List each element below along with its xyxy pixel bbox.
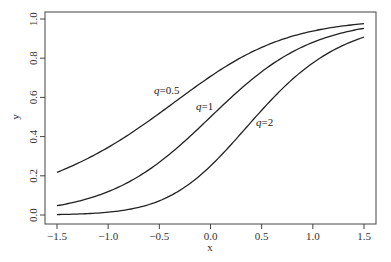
curve-q-1 bbox=[57, 28, 364, 205]
y-tick-label: 1.0 bbox=[27, 12, 39, 26]
y-tick-label: 0.8 bbox=[27, 51, 39, 65]
curve-q-0.5 bbox=[57, 24, 364, 173]
x-axis: −1.5−1.0−0.50.00.51.01.5 bbox=[47, 224, 371, 242]
y-tick-label: 0.2 bbox=[27, 169, 39, 183]
plot-area-frame bbox=[45, 12, 376, 224]
y-tick-label: 0.4 bbox=[27, 129, 39, 143]
y-tick-label: 0.6 bbox=[27, 90, 39, 104]
x-tick-label: −1.0 bbox=[98, 230, 118, 242]
x-tick-label: −1.5 bbox=[47, 230, 67, 242]
curve-q-2 bbox=[57, 37, 364, 214]
x-tick-label: 1.5 bbox=[357, 230, 371, 242]
curve-label-q-1: q=1 bbox=[196, 100, 213, 112]
x-tick-label: 0.5 bbox=[255, 230, 269, 242]
x-tick-label: 1.0 bbox=[306, 230, 320, 242]
curves bbox=[57, 24, 364, 215]
x-tick-label: −0.5 bbox=[149, 230, 169, 242]
curve-label-q-2: q=2 bbox=[256, 116, 273, 128]
curve-labels: q=0.5q=1q=2 bbox=[154, 84, 273, 128]
x-axis-label: x bbox=[207, 241, 213, 253]
y-tick-label: 0.0 bbox=[27, 208, 39, 222]
line-chart: 0.00.20.40.60.81.0 −1.5−1.0−0.50.00.51.0… bbox=[0, 0, 391, 262]
y-axis: 0.00.20.40.60.81.0 bbox=[27, 12, 45, 222]
curve-label-q-0.5: q=0.5 bbox=[154, 84, 180, 96]
y-axis-label: y bbox=[9, 114, 21, 120]
